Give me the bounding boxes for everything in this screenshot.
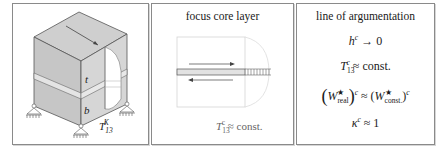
panel-focus-core-layer: focus core layer T13c ≈ const.: [151, 3, 294, 145]
equation-shear-stress: T13c ≈ const.: [297, 59, 434, 74]
label-top-layer: t: [85, 73, 88, 85]
panel-cube-model: t b T13K: [12, 3, 149, 145]
panel-title: line of argumentation: [297, 10, 434, 22]
equation-kappa: κc ≈ 1: [297, 116, 434, 131]
equation-work: (W★real)c ≈ (W★const.)c: [297, 86, 434, 107]
support-front: [73, 124, 89, 138]
label-shear-stress: T13K: [99, 120, 109, 132]
label-bottom-layer: b: [84, 104, 90, 116]
sandwich-cube-diagram: [13, 4, 148, 144]
equation-thickness: hc → 0: [297, 34, 434, 49]
panel-line-of-argumentation: line of argumentation hc → 0 T13c ≈ cons…: [296, 3, 435, 145]
core-shear-annotation: T13c ≈ const.: [216, 120, 262, 132]
